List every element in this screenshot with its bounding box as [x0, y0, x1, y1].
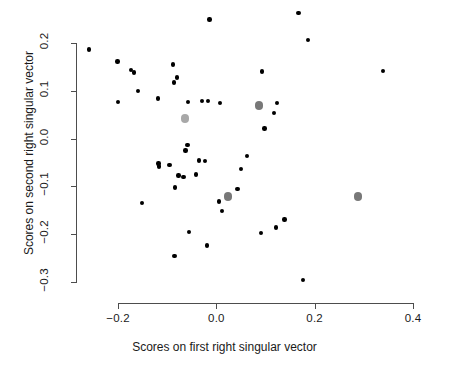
y-tick — [71, 43, 77, 44]
y-tick-label: 0.0 — [38, 115, 50, 159]
data-point — [167, 163, 171, 167]
data-point — [87, 47, 91, 51]
scatter-plot-figure: −0.20.00.20.40.20.10.0−0.1−0.2−0.3 Score… — [0, 0, 449, 366]
data-point — [175, 75, 179, 79]
data-point — [282, 217, 286, 221]
data-point — [181, 114, 190, 123]
data-point — [262, 126, 266, 130]
data-point — [274, 225, 278, 229]
data-point — [259, 231, 263, 235]
x-tick — [315, 303, 316, 309]
data-point — [207, 17, 211, 21]
data-point — [136, 89, 140, 93]
data-point — [200, 99, 204, 103]
data-point — [381, 69, 385, 73]
y-tick — [71, 234, 77, 235]
plot-area: −0.20.00.20.40.20.10.0−0.1−0.2−0.3 — [0, 0, 449, 366]
data-point — [140, 201, 144, 205]
data-point — [132, 70, 136, 74]
data-point — [224, 192, 233, 201]
data-point — [275, 101, 279, 105]
data-point — [194, 172, 198, 176]
data-point — [116, 100, 120, 104]
data-point — [354, 192, 363, 201]
data-point — [171, 62, 175, 66]
data-point — [173, 185, 177, 189]
y-tick — [71, 91, 77, 92]
x-tick-label: −0.2 — [88, 312, 148, 324]
data-point — [172, 254, 176, 258]
data-point — [220, 209, 224, 213]
data-point — [205, 243, 209, 247]
data-point — [306, 38, 310, 42]
data-point — [183, 148, 187, 152]
data-point — [115, 59, 119, 63]
x-axis-line — [118, 303, 413, 304]
data-point — [186, 100, 190, 104]
y-tick-label: −0.3 — [38, 258, 50, 302]
x-axis-title: Scores on first right singular vector — [0, 340, 449, 354]
data-point — [203, 159, 207, 163]
data-point — [187, 230, 191, 234]
y-tick-label: −0.1 — [38, 162, 50, 206]
x-tick — [118, 303, 119, 309]
y-axis-line — [76, 43, 77, 282]
data-point — [197, 158, 201, 162]
y-tick — [71, 139, 77, 140]
x-tick-label: 0.0 — [186, 312, 246, 324]
data-point — [185, 143, 189, 147]
data-point — [157, 164, 161, 168]
data-point — [239, 167, 243, 171]
data-point — [156, 96, 160, 100]
data-point — [218, 101, 222, 105]
data-point — [296, 11, 300, 15]
data-point — [301, 278, 305, 282]
data-point — [272, 111, 276, 115]
data-point — [235, 187, 239, 191]
data-point — [260, 69, 264, 73]
x-tick-label: 0.2 — [285, 312, 345, 324]
data-point — [255, 101, 264, 110]
data-point — [206, 99, 210, 103]
y-tick — [71, 186, 77, 187]
data-point — [217, 199, 221, 203]
x-tick-label: 0.4 — [383, 312, 443, 324]
y-tick-label: −0.2 — [38, 210, 50, 254]
y-axis-title: Scores on second right singular vector — [22, 13, 36, 293]
y-tick-label: 0.1 — [38, 67, 50, 111]
data-point — [245, 154, 249, 158]
y-tick — [71, 282, 77, 283]
data-point — [176, 173, 180, 177]
data-point — [172, 80, 176, 84]
data-point — [181, 175, 185, 179]
x-tick — [216, 303, 217, 309]
x-tick — [413, 303, 414, 309]
y-tick-label: 0.2 — [38, 19, 50, 63]
